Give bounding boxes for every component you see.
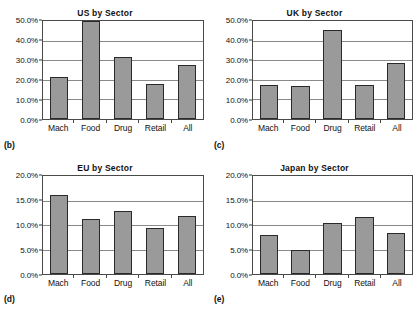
bar[interactable] <box>50 195 69 274</box>
x-axis-tick-label: Retail <box>139 275 171 291</box>
y-axis-tick-label: 10.0% <box>226 221 248 230</box>
chart-area: 20.0%15.0%10.0%5.0%0.0% <box>210 175 413 275</box>
bar-slot <box>75 21 107 119</box>
bar[interactable] <box>291 86 309 119</box>
y-axis-tick-label: 5.0% <box>230 246 248 255</box>
x-axis-tick-label: Mach <box>252 120 284 136</box>
y-axis-tick-label: 10.0% <box>16 96 38 105</box>
panel-label: (c) <box>214 140 224 150</box>
x-axis-tick-label: Mach <box>42 120 74 136</box>
plot-area <box>252 175 413 275</box>
bar-slot <box>253 176 285 274</box>
bar[interactable] <box>178 216 197 274</box>
bar-slot <box>139 21 171 119</box>
y-axis-tick-label: 50.0% <box>226 16 248 25</box>
bar-slot <box>253 21 285 119</box>
x-axis: MachFoodDrugRetailAll <box>252 120 413 136</box>
bar-slot <box>317 176 349 274</box>
bar[interactable] <box>82 219 101 274</box>
y-axis: 20.0%15.0%10.0%5.0%0.0% <box>0 175 42 275</box>
bar-series <box>43 176 203 274</box>
bar-series <box>253 21 412 119</box>
x-axis-tick-label: Drug <box>316 120 348 136</box>
bar-slot <box>348 21 380 119</box>
bar-slot <box>75 176 107 274</box>
x-axis-tick-label: All <box>172 120 204 136</box>
x-axis-tick-label: Drug <box>107 275 139 291</box>
chart-area: 50.0%40.0%30.0%20.0%10.0%0.0% <box>0 20 204 120</box>
x-axis-tick-label: Food <box>74 275 106 291</box>
bar[interactable] <box>323 223 341 274</box>
bar[interactable] <box>387 233 405 274</box>
bar[interactable] <box>178 65 197 119</box>
bar-slot <box>43 176 75 274</box>
y-axis-tick-label: 40.0% <box>16 36 38 45</box>
bar[interactable] <box>114 57 133 119</box>
bar[interactable] <box>323 30 341 119</box>
bar-slot <box>317 21 349 119</box>
bar[interactable] <box>260 85 278 119</box>
bar-slot <box>348 176 380 274</box>
y-axis-tick-label: 20.0% <box>16 76 38 85</box>
bar-slot <box>285 176 317 274</box>
y-axis-tick-label: 15.0% <box>226 196 248 205</box>
bar-slot <box>107 176 139 274</box>
y-axis-tick-label: 50.0% <box>16 16 38 25</box>
chart-panel: Japan by Sector20.0%15.0%10.0%5.0%0.0%Ma… <box>210 155 419 309</box>
bar-slot <box>43 21 75 119</box>
y-axis-tick-label: 0.0% <box>230 116 248 125</box>
panel-label: (e) <box>214 294 224 304</box>
x-axis: MachFoodDrugRetailAll <box>42 275 204 291</box>
bar[interactable] <box>146 84 165 119</box>
bar[interactable] <box>50 77 69 119</box>
plot-area <box>42 20 204 120</box>
chart-area: 50.0%40.0%30.0%20.0%10.0%0.0% <box>210 20 413 120</box>
bar-series <box>43 21 203 119</box>
x-axis-tick-label: Retail <box>139 120 171 136</box>
x-axis-tick-label: Mach <box>42 275 74 291</box>
bar[interactable] <box>114 211 133 274</box>
x-axis-tick-label: Food <box>74 120 106 136</box>
bar-slot <box>380 176 412 274</box>
y-axis-tick-label: 0.0% <box>20 116 38 125</box>
bar[interactable] <box>387 63 405 119</box>
bar[interactable] <box>82 21 101 119</box>
bar-slot <box>171 176 203 274</box>
y-axis-tick-label: 20.0% <box>16 171 38 180</box>
x-axis-tick-label: Drug <box>316 275 348 291</box>
x-axis-tick-label: Mach <box>252 275 284 291</box>
x-axis-tick-label: All <box>381 120 413 136</box>
x-axis-tick-label: All <box>381 275 413 291</box>
y-axis-tick-label: 10.0% <box>226 96 248 105</box>
y-axis-tick-label: 10.0% <box>16 221 38 230</box>
y-axis-tick-label: 30.0% <box>16 56 38 65</box>
y-axis-tick-label: 40.0% <box>226 36 248 45</box>
bar-series <box>253 176 412 274</box>
x-axis-tick-label: Retail <box>349 275 381 291</box>
y-axis-tick-label: 30.0% <box>226 56 248 65</box>
y-axis: 50.0%40.0%30.0%20.0%10.0%0.0% <box>0 20 42 120</box>
bar[interactable] <box>355 217 373 274</box>
plot-area <box>252 20 413 120</box>
plot-area <box>42 175 204 275</box>
chart-panel: UK by Sector50.0%40.0%30.0%20.0%10.0%0.0… <box>210 0 419 155</box>
y-axis-tick-label: 20.0% <box>226 76 248 85</box>
bar[interactable] <box>146 228 165 274</box>
bar[interactable] <box>260 235 278 274</box>
x-axis-tick-label: Food <box>284 120 316 136</box>
chart-panel: EU by Sector20.0%15.0%10.0%5.0%0.0%MachF… <box>0 155 210 309</box>
y-axis: 20.0%15.0%10.0%5.0%0.0% <box>210 175 252 275</box>
bar-slot <box>285 21 317 119</box>
x-axis: MachFoodDrugRetailAll <box>42 120 204 136</box>
bar-slot <box>171 21 203 119</box>
chart-panel: US by Sector50.0%40.0%30.0%20.0%10.0%0.0… <box>0 0 210 155</box>
figure-grid: US by Sector50.0%40.0%30.0%20.0%10.0%0.0… <box>0 0 419 309</box>
bar[interactable] <box>355 85 373 119</box>
y-axis-tick-label: 5.0% <box>20 246 38 255</box>
y-axis: 50.0%40.0%30.0%20.0%10.0%0.0% <box>210 20 252 120</box>
bar[interactable] <box>291 250 309 275</box>
x-axis: MachFoodDrugRetailAll <box>252 275 413 291</box>
bar-slot <box>107 21 139 119</box>
x-axis-tick-label: Drug <box>107 120 139 136</box>
x-axis-tick-label: Food <box>284 275 316 291</box>
